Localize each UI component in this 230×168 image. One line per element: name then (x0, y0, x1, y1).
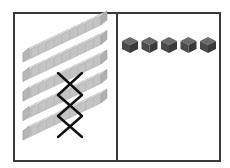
ones-cube (161, 37, 177, 53)
ones-cube (122, 37, 138, 53)
ones-cube (142, 37, 158, 53)
ones-cube (181, 37, 197, 53)
ones-cubes (122, 37, 216, 53)
ones-cube (200, 37, 216, 53)
diagram-canvas (0, 0, 230, 168)
